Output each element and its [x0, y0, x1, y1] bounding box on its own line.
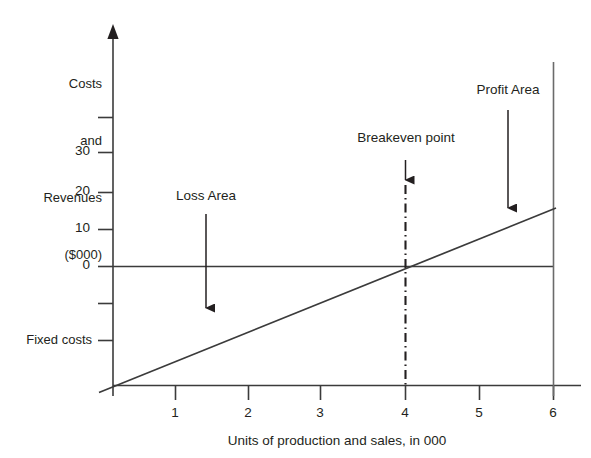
y-tick-label-20: 20 [38, 183, 90, 199]
x-tick-marks [176, 385, 554, 400]
y-axis-title-line-1: Costs [6, 74, 102, 93]
x-tick-label-2: 2 [235, 405, 261, 421]
y-axis-arrowhead [107, 24, 118, 39]
x-tick-label-4: 4 [392, 405, 418, 421]
y-tick-label-30: 30 [38, 143, 90, 159]
x-axis-title: Units of production and sales, in 000 [172, 433, 502, 449]
x-tick-label-6: 6 [540, 405, 566, 421]
y-tick-label-fixed-costs: Fixed costs [6, 332, 92, 347]
x-tick-label-1: 1 [162, 405, 188, 421]
y-tick-label-10: 10 [38, 220, 90, 236]
x-tick-label-3: 3 [307, 405, 333, 421]
x-tick-label-5: 5 [466, 405, 492, 421]
annotation-label-breakeven-point: Breakeven point [340, 130, 472, 146]
annotation-label-profit-area: Profit Area [455, 82, 561, 98]
axis-group [107, 24, 581, 396]
y-tick-label-0: 0 [38, 257, 90, 273]
breakeven-chart: Costs and Revenues ($000) 30 20 10 0 Fix… [0, 0, 591, 458]
profit-loss-line [99, 208, 556, 393]
annotation-label-loss-area: Loss Area [156, 188, 256, 204]
